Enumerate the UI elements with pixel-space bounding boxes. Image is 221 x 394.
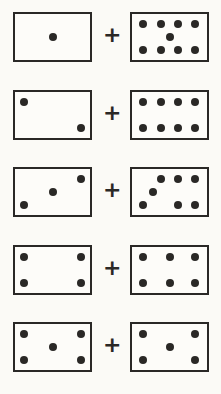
- pip-dot-icon: [149, 188, 157, 196]
- domino-pair-row-1: +: [0, 12, 221, 64]
- plus-sign-icon: +: [103, 257, 121, 279]
- pip-dot-icon: [191, 201, 199, 209]
- pip-dot-icon: [174, 20, 182, 28]
- plus-sign-icon: +: [103, 179, 121, 201]
- pip-dot-icon: [174, 175, 182, 183]
- pip-dot-icon: [139, 279, 147, 287]
- pip-dot-icon: [191, 253, 199, 261]
- pip-dot-icon: [77, 253, 85, 261]
- pip-dot-icon: [191, 98, 199, 106]
- domino-pair-row-3: +: [0, 167, 221, 219]
- pip-dot-icon: [49, 343, 57, 351]
- pip-dot-icon: [49, 188, 57, 196]
- pip-dot-icon: [166, 279, 174, 287]
- plus-sign-icon: +: [103, 24, 121, 46]
- pip-dot-icon: [77, 356, 85, 364]
- pip-dot-icon: [191, 330, 199, 338]
- pip-dot-icon: [166, 33, 174, 41]
- pip-dot-icon: [191, 124, 199, 132]
- pip-dot-icon: [157, 175, 165, 183]
- pip-dot-icon: [20, 98, 28, 106]
- pip-dot-icon: [139, 124, 147, 132]
- pip-dot-icon: [174, 98, 182, 106]
- pip-dot-icon: [191, 279, 199, 287]
- pip-dot-icon: [191, 175, 199, 183]
- plus-sign-icon: +: [103, 102, 121, 124]
- pip-dot-icon: [191, 46, 199, 54]
- pip-dot-icon: [49, 33, 57, 41]
- pip-dot-icon: [20, 279, 28, 287]
- pip-dot-icon: [77, 124, 85, 132]
- pip-dot-icon: [174, 124, 182, 132]
- pip-dot-icon: [174, 46, 182, 54]
- pip-dot-icon: [20, 330, 28, 338]
- pip-dot-icon: [166, 343, 174, 351]
- pip-dot-icon: [139, 253, 147, 261]
- pip-dot-icon: [139, 356, 147, 364]
- left-domino-3-pips: [13, 167, 92, 217]
- pip-dot-icon: [157, 46, 165, 54]
- pip-dot-icon: [191, 20, 199, 28]
- domino-pair-row-2: +: [0, 90, 221, 142]
- right-domino-8-pips: [130, 90, 209, 140]
- pip-dot-icon: [157, 20, 165, 28]
- pip-dot-icon: [157, 98, 165, 106]
- right-domino-5-pips: [130, 322, 209, 372]
- pip-dot-icon: [157, 124, 165, 132]
- pip-dot-icon: [139, 46, 147, 54]
- domino-pair-row-5: +: [0, 322, 221, 374]
- left-domino-4-pips: [13, 245, 92, 295]
- pip-dot-icon: [77, 279, 85, 287]
- pip-dot-icon: [191, 356, 199, 364]
- pip-dot-icon: [20, 201, 28, 209]
- domino-pair-row-4: +: [0, 245, 221, 297]
- pip-dot-icon: [77, 330, 85, 338]
- right-domino-9-pips: [130, 12, 209, 62]
- right-domino-6-pips: [130, 245, 209, 295]
- plus-sign-icon: +: [103, 334, 121, 356]
- pip-dot-icon: [174, 201, 182, 209]
- pip-dot-icon: [20, 356, 28, 364]
- left-domino-2-pips: [13, 90, 92, 140]
- pip-dot-icon: [20, 253, 28, 261]
- pip-dot-icon: [139, 330, 147, 338]
- pip-dot-icon: [139, 201, 147, 209]
- pip-dot-icon: [166, 253, 174, 261]
- pip-dot-icon: [77, 175, 85, 183]
- left-domino-1-pips: [13, 12, 92, 62]
- left-domino-5-pips: [13, 322, 92, 372]
- right-domino-7-pips: [130, 167, 209, 217]
- pip-dot-icon: [139, 98, 147, 106]
- pip-dot-icon: [139, 20, 147, 28]
